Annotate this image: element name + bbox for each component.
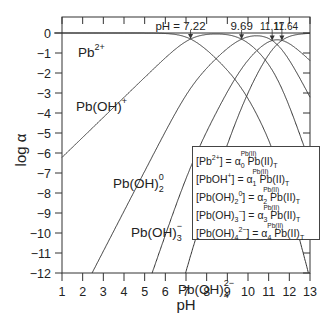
y-tick-label: −5: [37, 127, 51, 141]
x-tick-label: 5: [141, 285, 148, 299]
y-tick-label: −2: [37, 67, 51, 81]
x-tick-label: 3: [100, 285, 107, 299]
x-tick-label: 10: [241, 285, 255, 299]
legend: [Pb2+] = α0Pb(II) Pb(II)T[PbOH+] = α1Pb(…: [192, 146, 320, 240]
y-tick-label: −11: [31, 247, 51, 261]
y-tick-label: −12: [30, 267, 51, 281]
y-tick-label: −7: [37, 167, 51, 181]
crossing-label: pH = 7.22: [155, 20, 205, 32]
species-label: Pb(OH)3−: [131, 221, 182, 243]
y-tick-label: −3: [37, 87, 51, 101]
legend-entry: [PbOH+] = α1Pb(II) Pb(II)T: [196, 167, 316, 185]
x-axis-label: pH: [176, 296, 195, 313]
legend-entry: [Pb(OH)3−] = α3Pb(II) Pb(II)T: [196, 203, 316, 221]
y-tick-label: −6: [37, 147, 51, 161]
y-tick-label: −10: [30, 227, 51, 241]
x-tick-label: 12: [282, 285, 296, 299]
x-tick-label: 6: [162, 285, 169, 299]
y-tick-label: −8: [37, 187, 51, 201]
legend-entry: [Pb(OH)42−] = α4Pb(II) Pb(II)T: [196, 221, 316, 239]
crossing-label: 9.69: [230, 20, 252, 32]
y-tick-label: −4: [37, 107, 51, 121]
x-tick-label: 1: [59, 285, 66, 299]
x-tick-label: 11: [262, 285, 275, 299]
x-tick-label: 4: [121, 285, 128, 299]
x-tick-label: 2: [79, 285, 86, 299]
y-tick-label: 0: [44, 27, 51, 41]
y-axis-label: log α: [12, 133, 29, 166]
y-tick-label: −1: [37, 47, 51, 61]
x-tick-label: 13: [303, 285, 317, 299]
crossing-label: 11.64: [274, 21, 299, 32]
y-tick-label: −9: [37, 207, 51, 221]
species-label: Pb2+: [78, 42, 105, 60]
species-label: Pb(OH)20: [113, 172, 164, 194]
species-label: Pb(OH)+: [76, 96, 127, 114]
